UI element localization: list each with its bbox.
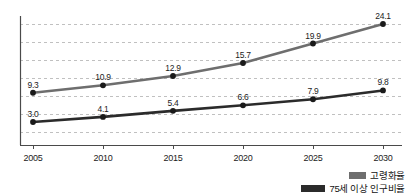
x-tick-label: 2005 — [23, 153, 42, 163]
data-point-marker — [100, 82, 106, 88]
data-point-marker — [30, 90, 36, 96]
legend-item-label: 75세 이상 인구비율 — [329, 183, 405, 194]
data-point-label: 3.0 — [28, 110, 39, 119]
series-lines — [33, 24, 383, 122]
data-point-marker — [30, 119, 36, 125]
line-chart: 9.310.912.915.719.924.13.04.15.46.67.99.… — [0, 0, 407, 196]
x-tick-label: 2010 — [93, 153, 112, 163]
data-point-label: 4.1 — [98, 105, 109, 114]
legend-swatch-icon — [349, 172, 366, 179]
series-line — [33, 90, 383, 122]
data-point-label: 9.3 — [28, 81, 39, 90]
data-point-marker — [240, 102, 246, 108]
legend-item-label: 고령화율 — [370, 170, 405, 181]
data-point-label: 12.9 — [165, 64, 180, 73]
data-point-label: 6.6 — [238, 93, 249, 102]
data-point-marker — [380, 88, 386, 94]
data-point-label: 5.4 — [168, 99, 179, 108]
x-tick-label: 2015 — [163, 153, 182, 163]
legend-item-75plus-ratio: 75세 이상 인구비율 — [301, 183, 405, 194]
x-tick-label: 2030 — [373, 153, 392, 163]
legend-item-aging-rate: 고령화율 — [349, 170, 405, 181]
x-tick-label: 2020 — [233, 153, 252, 163]
data-point-label: 15.7 — [235, 51, 250, 60]
data-point-label: 10.9 — [95, 73, 110, 82]
data-point-marker — [170, 108, 176, 114]
data-point-marker — [100, 114, 106, 120]
plot-area — [0, 0, 407, 196]
data-point-marker — [380, 21, 386, 27]
data-point-marker — [310, 41, 316, 47]
data-point-label: 24.1 — [375, 12, 390, 21]
data-point-marker — [310, 96, 316, 102]
data-point-marker — [170, 73, 176, 79]
series-line — [33, 24, 383, 93]
legend-swatch-icon — [301, 185, 325, 192]
gridlines — [20, 25, 402, 133]
data-point-marker — [240, 60, 246, 66]
data-point-label: 7.9 — [308, 87, 319, 96]
data-point-label: 9.8 — [378, 78, 389, 87]
chart-legend: 고령화율 75세 이상 인구비율 — [301, 170, 405, 194]
x-tick-label: 2025 — [303, 153, 322, 163]
data-point-label: 19.9 — [305, 32, 320, 41]
